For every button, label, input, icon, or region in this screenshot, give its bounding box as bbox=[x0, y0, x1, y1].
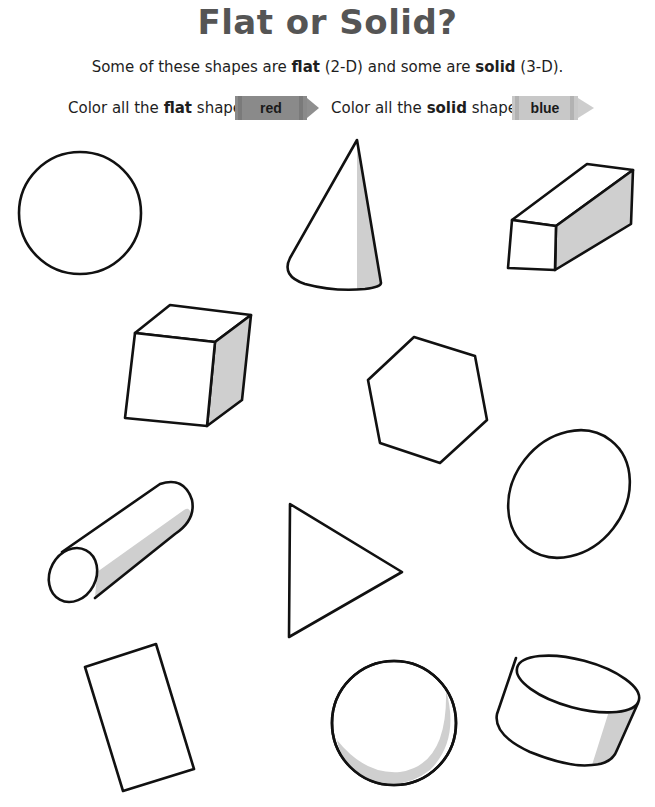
shape-hexagon[interactable] bbox=[368, 337, 487, 463]
shape-cylinder-tilted[interactable] bbox=[496, 645, 645, 766]
shape-rectangle[interactable] bbox=[85, 644, 194, 791]
shape-triangle[interactable] bbox=[289, 504, 402, 637]
shapes-canvas bbox=[0, 0, 655, 807]
shape-rectangular-prism[interactable] bbox=[508, 164, 633, 270]
shape-cone[interactable] bbox=[288, 140, 381, 290]
shape-cube[interactable] bbox=[125, 305, 251, 426]
shape-cylinder-lying[interactable] bbox=[40, 482, 193, 611]
shape-circle[interactable] bbox=[19, 152, 141, 274]
shape-oval[interactable] bbox=[483, 406, 655, 582]
shape-sphere[interactable] bbox=[332, 661, 456, 785]
